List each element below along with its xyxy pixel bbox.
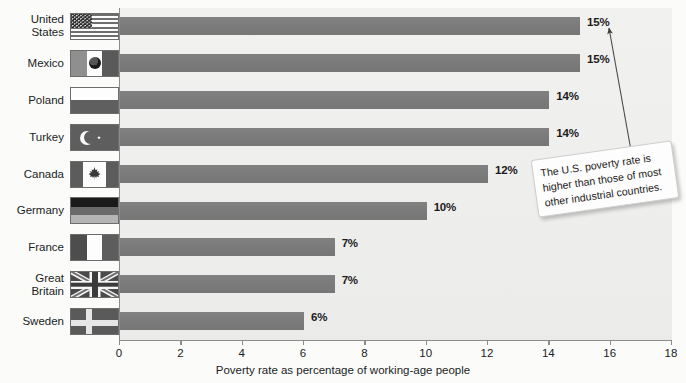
- flag-poland-icon: [70, 87, 119, 114]
- category-label: Sweden: [22, 315, 70, 328]
- bar-row: 7%: [120, 229, 672, 266]
- bar: [120, 54, 580, 72]
- bar-row: 15%: [120, 45, 672, 82]
- x-axis-tick: [119, 340, 120, 345]
- bar-value-label: 14%: [556, 90, 578, 102]
- bar: [120, 238, 335, 256]
- flag-canada-icon: [70, 161, 119, 188]
- flag-sweden-icon: [70, 308, 119, 335]
- x-axis-tick-label: 4: [238, 347, 244, 359]
- x-axis-tick-label: 2: [177, 347, 183, 359]
- x-axis-tick-label: 18: [665, 347, 678, 359]
- category-label: Canada: [24, 168, 70, 181]
- category-label: Poland: [28, 94, 70, 107]
- bar-row: 7%: [120, 266, 672, 303]
- category-label: France: [28, 241, 70, 254]
- category-row: Canada: [0, 156, 119, 193]
- x-axis-tick: [426, 340, 427, 345]
- flag-mexico-icon: [70, 50, 119, 77]
- bar-value-label: 6%: [311, 311, 327, 323]
- category-row: United States: [0, 8, 119, 45]
- category-label: Mexico: [28, 57, 70, 70]
- x-axis-tick: [242, 340, 243, 345]
- bar-value-label: 14%: [556, 127, 578, 139]
- x-axis-line: [119, 340, 671, 341]
- bar-value-label: 7%: [342, 274, 358, 286]
- category-row: Sweden: [0, 303, 119, 340]
- category-row: Mexico: [0, 45, 119, 82]
- x-axis-tick-label: 12: [481, 347, 494, 359]
- bar-value-label: 10%: [434, 201, 456, 213]
- category-label: United States: [31, 13, 70, 39]
- x-axis-tick: [180, 340, 181, 345]
- bar-value-label: 12%: [495, 164, 517, 176]
- category-label: Germany: [17, 204, 70, 217]
- bar: [120, 275, 335, 293]
- bar-value-label: 15%: [587, 16, 609, 28]
- category-row: France: [0, 229, 119, 266]
- category-row: Germany: [0, 193, 119, 230]
- bar-row: 14%: [120, 119, 672, 156]
- category-row: Turkey: [0, 119, 119, 156]
- bar: [120, 312, 304, 330]
- flag-great-britain-icon: [70, 271, 119, 298]
- callout-text: The U.S. poverty rate is higher than tho…: [540, 148, 673, 210]
- x-axis-tick-label: 16: [603, 347, 616, 359]
- x-axis-tick: [548, 340, 549, 345]
- x-axis-tick: [303, 340, 304, 345]
- flag-turkey-icon: [70, 124, 119, 151]
- x-axis-tick-label: 10: [419, 347, 432, 359]
- bar-value-label: 15%: [587, 53, 609, 65]
- poverty-rate-bar-chart: 15%15%14%14%12%10%7%7%6% United StatesMe…: [0, 0, 686, 383]
- x-axis-tick: [671, 340, 672, 345]
- category-row: Poland: [0, 82, 119, 119]
- x-axis-tick: [487, 340, 488, 345]
- category-label: Turkey: [29, 131, 70, 144]
- x-axis-tick: [364, 340, 365, 345]
- bar: [120, 17, 580, 35]
- category-label: Great Britain: [0, 272, 70, 298]
- bar-row: 14%: [120, 82, 672, 119]
- bar: [120, 91, 549, 109]
- x-axis-tick-label: 6: [300, 347, 306, 359]
- category-row: Great Britain: [0, 266, 119, 303]
- bar-value-label: 7%: [342, 237, 358, 249]
- x-axis-title: Poverty rate as percentage of working-ag…: [0, 364, 686, 376]
- x-axis-tick-label: 14: [542, 347, 555, 359]
- bar: [120, 202, 427, 220]
- flag-france-icon: [70, 234, 119, 261]
- bar: [120, 128, 549, 146]
- x-axis-tick: [610, 340, 611, 345]
- x-axis-tick-label: 8: [361, 347, 367, 359]
- flag-germany-icon: [70, 197, 119, 224]
- bar: [120, 165, 488, 183]
- x-axis-tick-label: 0: [116, 347, 122, 359]
- bar-row: 6%: [120, 303, 672, 340]
- bar-row: 15%: [120, 8, 672, 45]
- flag-united-states-icon: [70, 13, 119, 40]
